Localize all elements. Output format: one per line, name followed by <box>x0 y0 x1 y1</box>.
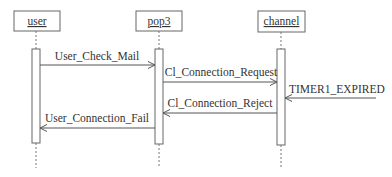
message-timer1-expired: TIMER1_EXPIRED <box>285 83 385 98</box>
svg-text:user: user <box>27 15 46 27</box>
svg-text:TIMER1_EXPIRED: TIMER1_EXPIRED <box>289 83 385 95</box>
activation-user <box>32 49 40 143</box>
svg-text:pop3: pop3 <box>148 15 171 28</box>
object-user: user <box>14 11 60 168</box>
svg-text:User_Check_Mail: User_Check_Mail <box>55 50 139 62</box>
svg-text:Cl_Connection_Request: Cl_Connection_Request <box>165 66 278 79</box>
message-user-connection-fail: User_Connection_Fail <box>40 112 155 128</box>
activation-channel <box>277 49 285 145</box>
sequence-diagram: user pop3 channel User_Check_Mail Cl_Con… <box>0 0 392 177</box>
message-cl-connection-request: Cl_Connection_Request <box>163 66 278 82</box>
activation-pop3 <box>155 49 163 144</box>
message-cl-connection-reject: Cl_Connection_Reject <box>163 97 277 113</box>
object-pop3: pop3 <box>136 11 182 168</box>
svg-text:User_Connection_Fail: User_Connection_Fail <box>45 112 149 124</box>
svg-text:Cl_Connection_Reject: Cl_Connection_Reject <box>168 97 274 110</box>
message-user-check-mail: User_Check_Mail <box>40 50 155 65</box>
svg-text:channel: channel <box>264 15 300 27</box>
